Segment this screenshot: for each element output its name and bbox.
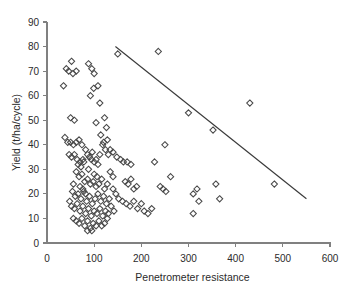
y-tick-label: 0 — [33, 238, 39, 249]
data-point-marker — [131, 198, 137, 204]
data-point-marker — [151, 159, 157, 165]
data-point-marker — [68, 58, 74, 64]
x-tick-label: 0 — [44, 253, 50, 264]
x-tick-label: 400 — [227, 253, 244, 264]
data-point-marker — [119, 198, 125, 204]
data-point-marker — [217, 196, 223, 202]
data-point-marker — [85, 166, 91, 172]
x-tick-label: 600 — [322, 253, 339, 264]
data-point-marker — [93, 120, 99, 126]
y-axis-title: Yield (t/ha/cycle) — [10, 94, 22, 171]
data-point-marker — [134, 206, 140, 212]
data-point-marker — [67, 115, 73, 121]
data-point-marker — [210, 127, 216, 133]
regression-trendline — [115, 47, 306, 199]
data-point-marker — [128, 161, 134, 167]
data-point-marker — [114, 154, 120, 160]
data-point-marker — [123, 201, 129, 207]
data-point-marker — [97, 100, 103, 106]
data-point-marker — [190, 210, 196, 216]
data-point-marker — [247, 100, 253, 106]
data-point-marker — [155, 48, 161, 54]
data-point-marker — [162, 142, 168, 148]
data-point-marker — [149, 206, 155, 212]
y-tick-label: 20 — [28, 188, 40, 199]
x-tick-label: 100 — [86, 253, 103, 264]
axes-layer — [43, 22, 331, 248]
data-point-marker — [60, 83, 66, 89]
y-tick-label: 30 — [28, 164, 40, 175]
data-point-marker — [185, 110, 191, 116]
figure-container: 01020304050607080900100200300400500600Pe… — [0, 0, 346, 289]
data-point-marker — [141, 208, 147, 214]
y-tick-label: 90 — [28, 17, 40, 28]
trendline-layer — [115, 47, 306, 199]
y-tick-label: 60 — [28, 90, 40, 101]
data-point-marker — [271, 181, 277, 187]
data-point-marker — [145, 210, 151, 216]
x-tick-label: 300 — [180, 253, 197, 264]
data-point-marker — [70, 181, 76, 187]
data-point-marker — [71, 117, 77, 123]
y-tick-label: 80 — [28, 41, 40, 52]
y-tick-label: 10 — [28, 213, 40, 224]
scatter-plot: 01020304050607080900100200300400500600Pe… — [0, 0, 346, 289]
data-point-marker — [97, 152, 103, 158]
data-point-marker — [196, 198, 202, 204]
y-tick-label: 70 — [28, 66, 40, 77]
data-point-marker — [87, 93, 93, 99]
data-point-marker — [194, 186, 200, 192]
data-point-marker — [101, 115, 107, 121]
data-point-marker — [115, 51, 121, 57]
data-point-marker — [104, 137, 110, 143]
data-point-marker — [103, 124, 109, 130]
data-point-marker — [127, 203, 133, 209]
y-tick-label: 50 — [28, 115, 40, 126]
y-tick-label: 40 — [28, 139, 40, 150]
data-point-marker — [85, 61, 91, 67]
x-axis-title: Penetrometer resistance — [135, 271, 250, 283]
x-tick-label: 200 — [133, 253, 150, 264]
data-point-marker — [190, 191, 196, 197]
x-tick-label: 500 — [274, 253, 291, 264]
data-point-marker — [138, 201, 144, 207]
data-point-marker — [167, 174, 173, 180]
data-point-marker — [98, 132, 104, 138]
data-points-layer — [60, 48, 277, 233]
data-point-marker — [213, 181, 219, 187]
